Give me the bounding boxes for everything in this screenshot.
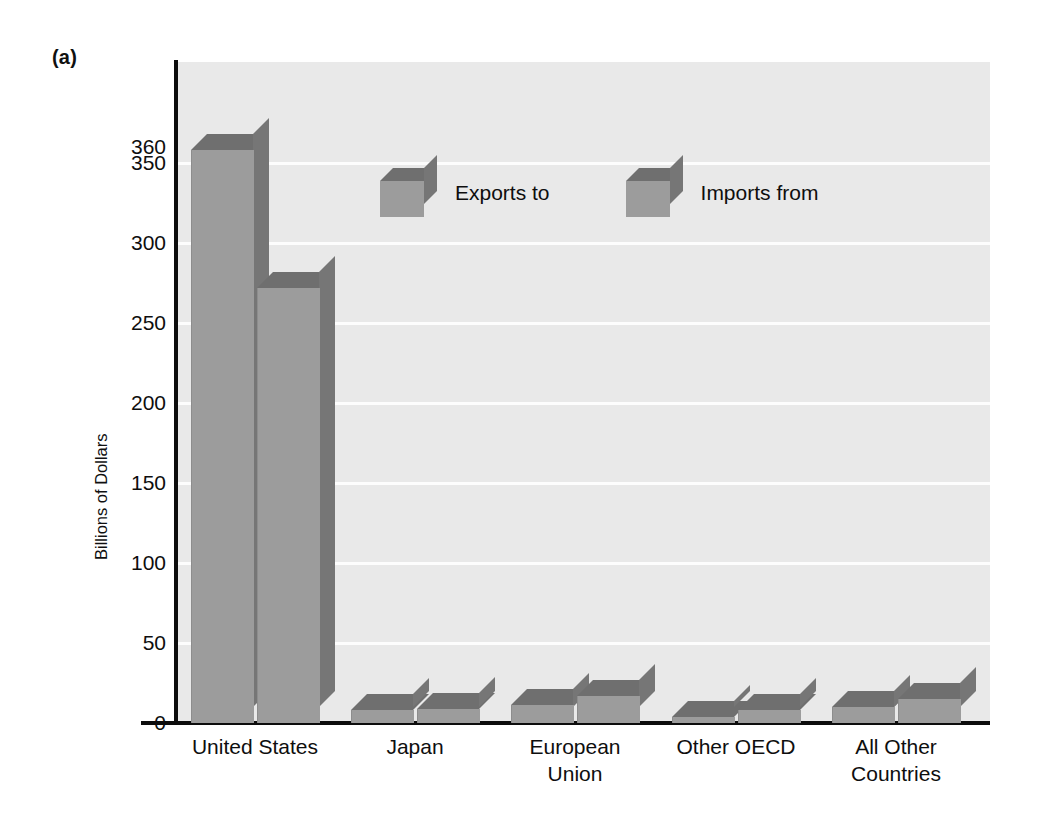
x-category-label: All OtherCountries	[766, 734, 1026, 788]
legend-item-exports: Exports to	[380, 168, 550, 217]
chart-page: (a) Billions of Dollars 3603503002502001…	[0, 0, 1045, 834]
x-category-label-line2: Countries	[766, 761, 1026, 788]
legend-swatch-front-face	[380, 181, 424, 217]
x-category-label-line1: All Other	[766, 734, 1026, 761]
chart-legend: Exports to Imports from	[380, 168, 818, 217]
legend-label-exports: Exports to	[455, 181, 550, 205]
x-category-label-line2: Union	[445, 761, 705, 788]
legend-swatch-front-face	[626, 181, 670, 217]
legend-label-imports: Imports from	[701, 181, 819, 205]
legend-swatch-exports-icon	[380, 168, 437, 217]
x-category-labels: United StatesJapanEuropeanUnionOther OEC…	[0, 0, 1045, 834]
legend-swatch-imports-icon	[626, 168, 683, 217]
legend-item-imports: Imports from	[626, 168, 819, 217]
